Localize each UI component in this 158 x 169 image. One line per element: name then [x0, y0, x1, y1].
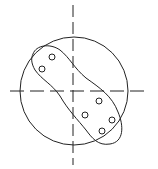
data-point — [96, 98, 102, 104]
data-point — [39, 66, 45, 72]
data-point — [109, 117, 115, 123]
data-point — [82, 112, 88, 118]
data-point — [99, 128, 105, 134]
data-points — [39, 54, 115, 134]
cluster-boundary-elongated — [32, 46, 122, 145]
data-point — [49, 54, 55, 60]
scatter-cluster-diagram — [0, 0, 158, 169]
